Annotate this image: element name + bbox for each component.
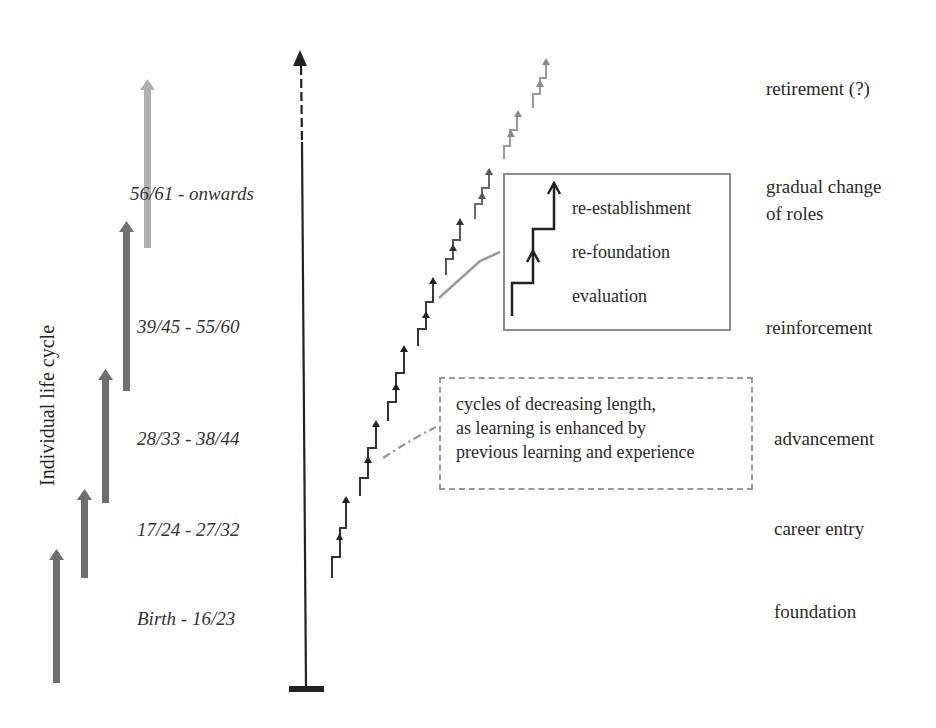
arrow-career-entry <box>77 489 92 578</box>
note-connector <box>383 427 436 458</box>
phase-foundation: foundation <box>774 600 856 624</box>
axis-arrowhead-icon <box>293 50 307 66</box>
phase-advancement: advancement <box>774 427 874 451</box>
phase-career-entry: career entry <box>774 517 864 541</box>
time-axis <box>289 50 324 692</box>
phase-reinforcement: reinforcement <box>766 316 873 340</box>
axis-base <box>289 686 324 692</box>
note-line-3: previous learning and experience <box>456 440 694 464</box>
arrow-retirement <box>140 79 155 248</box>
age-range-56-onwards: 56/61 - onwards <box>130 183 254 205</box>
phase-retirement: retirement (?) <box>766 77 870 101</box>
arrow-birth <box>49 549 64 683</box>
legend-item-re-foundation: re-foundation <box>572 242 670 263</box>
note-line-1: cycles of decreasing length, <box>456 392 694 416</box>
legend-item-evaluation: evaluation <box>572 286 647 307</box>
age-range-birth-16: Birth - 16/23 <box>137 608 235 630</box>
age-range-28-38: 28/33 - 38/44 <box>137 428 239 450</box>
age-range-39-55: 39/45 - 55/60 <box>137 316 239 338</box>
note-line-2: as learning is enhanced by <box>456 416 694 440</box>
phase-gradual-change-line1: gradual change <box>766 175 882 199</box>
individual-life-cycle-label: Individual life cycle <box>36 325 59 486</box>
arrow-reinforcement <box>119 221 134 391</box>
arrow-advancement <box>98 369 113 503</box>
life-cycle-arrows <box>49 79 155 683</box>
note-text: cycles of decreasing length, as learning… <box>456 392 694 464</box>
legend-item-re-establishment: re-establishment <box>572 198 691 219</box>
phase-gradual-change-line2: of roles <box>766 202 824 226</box>
age-range-17-27: 17/24 - 27/32 <box>137 519 239 541</box>
